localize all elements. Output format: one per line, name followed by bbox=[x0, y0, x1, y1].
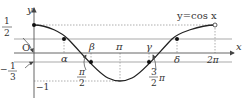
tick-3pi-half-num: 3 bbox=[151, 67, 157, 77]
point-alpha bbox=[62, 37, 66, 41]
tick-neg-third-num: 1 bbox=[10, 61, 16, 71]
y-axis-label: y bbox=[26, 4, 33, 15]
end-point bbox=[213, 23, 217, 27]
label-beta: β bbox=[88, 41, 95, 52]
label-gamma: γ bbox=[146, 41, 152, 52]
tick-neg-third-den: 3 bbox=[10, 72, 16, 82]
tick-pi: π bbox=[115, 41, 123, 52]
cosine-graph: y x O y=cos x 1 2 − 1 3 −1 π 2π π 2 3 2 … bbox=[0, 0, 245, 106]
tick-half-num: 1 bbox=[4, 16, 10, 26]
tick-neg-third-sign: − bbox=[0, 64, 8, 74]
start-point bbox=[32, 23, 36, 27]
label-delta: δ bbox=[174, 54, 180, 65]
point-gamma bbox=[147, 60, 151, 64]
tick-pi-half-num: π bbox=[78, 67, 86, 77]
tick-half-den: 2 bbox=[4, 28, 10, 38]
pointer-neg-third bbox=[25, 62, 33, 68]
function-label: y=cos x bbox=[176, 10, 217, 21]
tick-neg-one: −1 bbox=[36, 82, 49, 92]
x-axis-label: x bbox=[236, 41, 242, 52]
point-delta bbox=[175, 37, 179, 41]
point-beta bbox=[89, 60, 93, 64]
tick-3pi-half-den: 2 bbox=[151, 78, 157, 88]
origin-label: O bbox=[22, 42, 30, 53]
tick-2pi: 2π bbox=[206, 55, 220, 65]
tick-pi-half-den: 2 bbox=[79, 78, 85, 88]
tick-3pi-half-suffix: π bbox=[158, 73, 166, 83]
label-alpha: α bbox=[61, 53, 68, 64]
